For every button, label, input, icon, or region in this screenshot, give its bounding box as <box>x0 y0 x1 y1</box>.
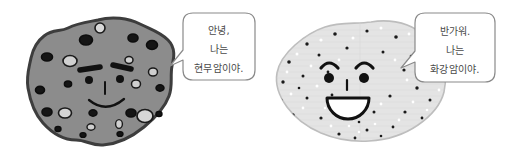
granite-rock-character: 반가워. 나는 화강암이야. <box>259 0 518 162</box>
illustration-canvas: 안녕, 나는 현무암이야. <box>0 0 518 162</box>
basalt-speech-line-3: 현무암이야. <box>183 64 255 74</box>
basalt-speech-line-1: 안녕, <box>183 26 255 36</box>
granite-speech-line-2: 나는 <box>415 46 495 56</box>
granite-speech-line-3: 화강암이야. <box>415 65 495 75</box>
granite-speech-line-1: 반가워. <box>415 27 495 37</box>
basalt-speech-line-2: 나는 <box>183 45 255 55</box>
basalt-rock-character: 안녕, 나는 현무암이야. <box>0 0 259 162</box>
